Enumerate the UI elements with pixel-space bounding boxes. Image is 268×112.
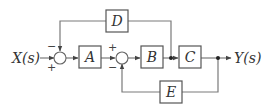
block-d-label: D [110, 13, 122, 29]
block-e: E [160, 81, 182, 103]
branch-point-b [169, 56, 173, 60]
output-label: Y(s) [234, 50, 261, 66]
s2-input-sign: + [108, 41, 117, 54]
s1-feedback-sign: − [47, 40, 56, 53]
s2-feedback-sign: − [108, 61, 117, 74]
block-e-label: E [165, 84, 176, 100]
block-c-label: C [185, 49, 196, 65]
s1-input-sign: + [47, 61, 56, 74]
input-label: X(s) [11, 50, 40, 66]
block-diagram: X(s) − + + − A B C D E Y(s) [0, 0, 268, 112]
summing-junction-2 [116, 52, 128, 64]
block-a: A [79, 46, 101, 68]
block-b: B [141, 46, 163, 68]
block-a-label: A [83, 49, 95, 65]
block-b-label: B [146, 49, 157, 65]
block-c: C [179, 46, 201, 68]
block-d: D [106, 10, 128, 32]
branch-point-c [216, 56, 220, 60]
